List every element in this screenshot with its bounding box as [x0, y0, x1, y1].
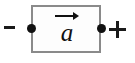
minus-sign-icon [4, 26, 15, 29]
plus-vertical-bar [116, 21, 119, 38]
plus-sign-icon [109, 21, 126, 38]
physics-diagram: a [0, 0, 135, 63]
vector-symbol-text: a [52, 18, 82, 48]
negative-terminal-dot-icon [27, 24, 36, 33]
positive-terminal-dot-icon [97, 24, 106, 33]
acceleration-vector-label: a [52, 10, 82, 50]
